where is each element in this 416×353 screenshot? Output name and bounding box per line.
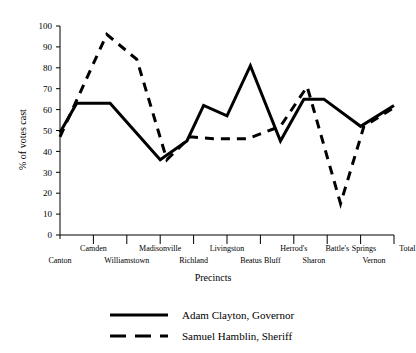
- x-category-label: Beatus Bluff: [240, 256, 281, 265]
- y-tick-label: 100: [39, 21, 53, 31]
- x-category-label: Battle's: [325, 244, 349, 253]
- y-tick-label: 30: [43, 168, 53, 178]
- y-tick-label: 90: [43, 42, 53, 52]
- x-category-label: Herrod's: [280, 244, 307, 253]
- y-tick-label: 40: [43, 147, 53, 157]
- x-category-label: Camden: [80, 244, 107, 253]
- x-category-label: Canton: [48, 256, 71, 265]
- x-category-label: Richland: [179, 256, 208, 265]
- y-axis-title: % of votes cast: [17, 109, 28, 170]
- x-category-label: Vernon: [362, 256, 385, 265]
- legend-label-governor: Adam Clayton, Governor: [182, 309, 294, 321]
- y-tick-label: 80: [43, 63, 53, 73]
- y-tick-label: 70: [43, 84, 53, 94]
- y-tick-label: 50: [43, 126, 53, 136]
- chart-legend: Adam Clayton, Governor Samuel Hamblin, S…: [110, 309, 294, 342]
- votes-line-chart: % of votes cast 0102030405060708090100 C…: [0, 0, 416, 353]
- x-category-label: Springs: [352, 244, 376, 253]
- legend-label-sheriff: Samuel Hamblin, Sheriff: [182, 330, 292, 342]
- y-tick-label: 20: [43, 188, 53, 198]
- x-axis-title: Precincts: [195, 272, 232, 283]
- x-category-label: Williamstown: [104, 256, 149, 265]
- x-category-label: Sharon: [303, 256, 326, 265]
- x-axis-ticks: [60, 235, 394, 244]
- x-category-label: Total: [399, 244, 416, 253]
- series-line-governor: [60, 66, 394, 160]
- y-tick-label: 10: [43, 209, 53, 219]
- y-axis-ticks: 0102030405060708090100: [39, 21, 61, 240]
- series-line-sheriff: [60, 34, 394, 203]
- x-axis-category-labels: CantonCamdenWilliamstownMadisonvilleRich…: [48, 244, 416, 265]
- chart-container: % of votes cast 0102030405060708090100 C…: [0, 0, 416, 353]
- y-tick-label: 60: [43, 105, 53, 115]
- y-tick-label: 0: [48, 230, 53, 240]
- x-category-label: Livingston: [210, 244, 245, 253]
- x-category-label: Madisonville: [139, 244, 182, 253]
